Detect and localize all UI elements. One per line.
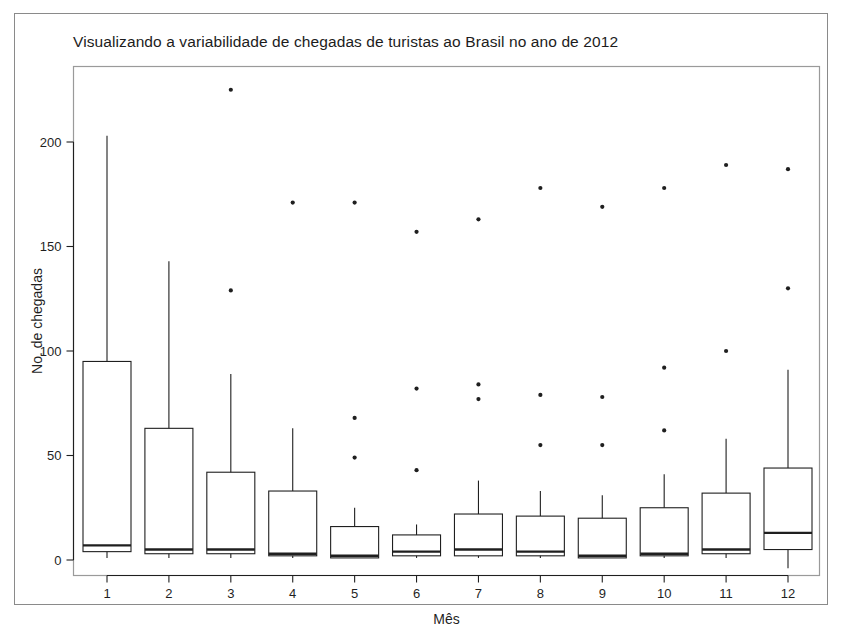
boxplot-box <box>145 261 193 558</box>
x-tick-label: 3 <box>227 586 234 601</box>
outlier-point <box>600 395 604 399</box>
y-axis-title: No. de chegadas <box>29 268 45 374</box>
boxplot-box <box>764 167 812 568</box>
x-tick-label: 9 <box>599 586 606 601</box>
outlier-point <box>229 288 233 292</box>
x-tick-label: 8 <box>537 586 544 601</box>
outlier-point <box>724 163 728 167</box>
outlier-point <box>786 286 790 290</box>
boxplot-box <box>83 136 131 558</box>
plot-panel-border <box>74 67 820 576</box>
axis-titles: MêsNo. de chegadas <box>29 268 460 626</box>
outlier-point <box>662 186 666 190</box>
outlier-point <box>476 217 480 221</box>
box-rect <box>764 468 812 550</box>
outlier-point <box>538 443 542 447</box>
box-rect <box>269 491 317 556</box>
x-tick-label: 10 <box>657 586 671 601</box>
outlier-point <box>353 455 357 459</box>
outlier-point <box>786 167 790 171</box>
outlier-point <box>476 382 480 386</box>
boxplot-box <box>454 217 502 558</box>
outlier-point <box>414 230 418 234</box>
boxplot-box <box>702 163 750 558</box>
boxplot-box <box>207 88 255 558</box>
outlier-point <box>353 416 357 420</box>
outlier-point <box>662 366 666 370</box>
x-tick-label: 2 <box>165 586 172 601</box>
x-tick-label: 5 <box>351 586 358 601</box>
boxplot-box <box>516 186 564 558</box>
x-tick-label: 4 <box>289 586 296 601</box>
box-rect <box>578 518 626 558</box>
box-rect <box>207 472 255 554</box>
outlier-point <box>291 201 295 205</box>
y-tick-label: 0 <box>54 553 61 568</box>
box-rect <box>702 493 750 554</box>
box-rect <box>145 428 193 553</box>
outlier-point <box>538 393 542 397</box>
boxplot-box <box>269 201 317 558</box>
box-rect <box>640 508 688 556</box>
outlier-point <box>538 186 542 190</box>
outlier-point <box>414 387 418 391</box>
x-axis-title: Mês <box>433 611 459 627</box>
y-tick-label: 50 <box>47 448 61 463</box>
outlier-point <box>662 428 666 432</box>
boxplot-box <box>578 205 626 558</box>
boxplot-box <box>393 230 441 558</box>
box-rect <box>331 527 379 558</box>
boxplot-canvas: 050100150200 123456789101112 MêsNo. de c… <box>0 0 853 637</box>
y-tick-label: 150 <box>40 239 62 254</box>
x-tick-label: 12 <box>781 586 795 601</box>
outlier-point <box>353 201 357 205</box>
outlier-point <box>724 349 728 353</box>
figure-root: Visualizando a variabilidade de chegadas… <box>0 0 853 637</box>
outlier-point <box>229 88 233 92</box>
x-tick-label: 1 <box>103 586 110 601</box>
x-axis: 123456789101112 <box>103 576 795 601</box>
outlier-point <box>476 397 480 401</box>
box-series <box>83 88 812 569</box>
boxplot-box <box>331 201 379 558</box>
boxplot-box <box>640 186 688 558</box>
outlier-point <box>600 443 604 447</box>
outlier-point <box>600 205 604 209</box>
plot-panel <box>74 67 820 576</box>
box-rect <box>83 361 131 551</box>
outlier-point <box>414 468 418 472</box>
x-tick-label: 11 <box>719 586 733 601</box>
y-tick-label: 200 <box>40 135 62 150</box>
x-tick-label: 6 <box>413 586 420 601</box>
x-tick-label: 7 <box>475 586 482 601</box>
box-rect <box>516 516 564 556</box>
